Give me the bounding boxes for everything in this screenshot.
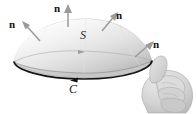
normal-label-left: n [9,19,15,30]
stokes-theorem-figure: n n n n S C [0,0,196,114]
normal-label-right: n [116,10,122,21]
figure-canvas [0,0,196,114]
normal-label-lower-right: n [153,39,159,50]
surface-label-s: S [80,29,86,41]
boundary-label-c: C [69,83,77,95]
normal-label-top: n [54,3,60,14]
